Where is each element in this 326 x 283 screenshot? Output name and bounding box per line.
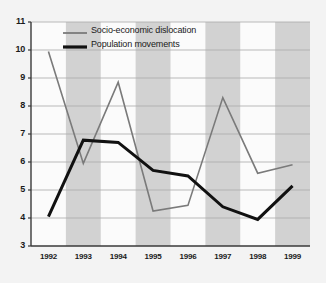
x-axis-tick-1993: 1993 <box>65 252 101 261</box>
black-line-swatch <box>63 44 87 50</box>
legend-label-population-movements: Population movements <box>91 39 180 49</box>
y-axis-tick-7: 7 <box>5 128 25 138</box>
x-axis-tick-1997: 1997 <box>205 252 241 261</box>
y-axis-tick-8: 8 <box>5 100 25 110</box>
y-axis-tick-3: 3 <box>5 240 25 250</box>
x-axis-tick-1998: 1998 <box>240 252 276 261</box>
y-axis-tick-11: 11 <box>5 16 25 26</box>
legend-label-socio-economic-dislocation: Socio-economic dislocation <box>91 25 196 35</box>
chart-container: 34567891011 1992199319941995199619971998… <box>0 0 326 283</box>
x-axis-tick-1999: 1999 <box>275 252 311 261</box>
y-axis-tick-6: 6 <box>5 156 25 166</box>
x-axis-tick-1995: 1995 <box>135 252 171 261</box>
y-axis-tick-4: 4 <box>5 212 25 222</box>
y-axis-tick-9: 9 <box>5 72 25 82</box>
y-axis-tick-10: 10 <box>5 44 25 54</box>
x-axis-tick-1994: 1994 <box>100 252 136 261</box>
x-axis-tick-1996: 1996 <box>170 252 206 261</box>
x-axis-tick-1992: 1992 <box>30 252 66 261</box>
y-axis-tick-5: 5 <box>5 184 25 194</box>
gray-line-swatch <box>63 30 87 36</box>
